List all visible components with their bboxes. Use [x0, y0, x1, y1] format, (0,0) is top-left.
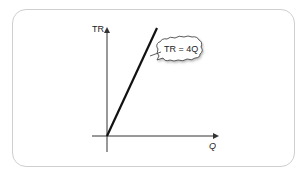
tr-line — [107, 28, 157, 136]
total-revenue-diagram: TR = 4Q TR Q — [0, 0, 308, 178]
x-axis-label: Q — [209, 141, 216, 151]
y-axis-label: TR — [92, 24, 104, 34]
callout-text: TR = 4Q — [164, 44, 198, 54]
